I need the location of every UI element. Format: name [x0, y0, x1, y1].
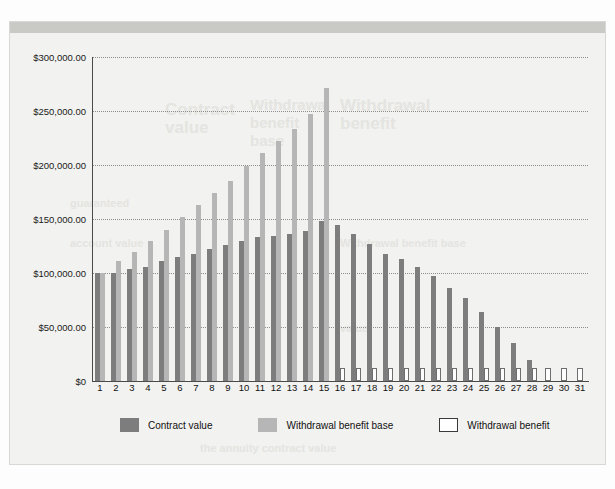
bar-benefit: [404, 368, 409, 381]
bar-base: [228, 181, 233, 381]
bar-contract: [303, 231, 308, 381]
bar-contract: [191, 254, 196, 381]
legend-label: Withdrawal benefit base: [286, 420, 393, 431]
bar-benefit: [340, 368, 345, 381]
x-axis-tick-label: 24: [463, 382, 474, 393]
y-axis-tick-label: $250,000.00: [33, 106, 86, 117]
x-axis-tick-label: 27: [511, 382, 522, 393]
x-axis-tick-label: 23: [447, 382, 458, 393]
bar-group: [124, 57, 140, 381]
bar-contract: [207, 249, 212, 381]
y-axis-tick-label: $200,000.00: [33, 160, 86, 171]
bar-base: [196, 205, 201, 381]
bar-group: [524, 57, 540, 381]
bar-benefit: [468, 368, 473, 381]
bar-benefit: [516, 368, 521, 381]
bar-contract: [335, 225, 340, 381]
bar-contract: [495, 327, 500, 381]
bar-group: [300, 57, 316, 381]
bar-base: [100, 273, 105, 381]
bar-group: [220, 57, 236, 381]
bar-base: [132, 252, 137, 381]
y-axis-line: [92, 57, 93, 382]
y-axis-tick-label: $50,000.00: [38, 322, 86, 333]
bar-contract: [479, 312, 484, 381]
chart-panel: Contract value Withdrawal benefit base W…: [9, 21, 606, 465]
bar-group: [284, 57, 300, 381]
x-axis-tick-label: 10: [239, 382, 250, 393]
x-axis-tick-label: 25: [479, 382, 490, 393]
legend-item[interactable]: Withdrawal benefit base: [258, 418, 393, 432]
bar-base: [148, 241, 153, 381]
x-axis-tick-label: 14: [303, 382, 314, 393]
x-axis-tick-label: 2: [113, 382, 118, 393]
bar-group: [572, 57, 588, 381]
x-axis-tick-label: 5: [161, 382, 166, 393]
bar-group: [380, 57, 396, 381]
bar-contract: [383, 254, 388, 381]
x-axis-tick-label: 29: [543, 382, 554, 393]
bar-benefit: [436, 368, 441, 381]
bar-group: [492, 57, 508, 381]
bar-base: [212, 193, 217, 381]
x-axis-tick-label: 7: [193, 382, 198, 393]
bar-benefit: [577, 368, 583, 381]
bar-base: [164, 230, 169, 381]
bar-benefit: [452, 368, 457, 381]
bar-contract: [127, 269, 132, 381]
ghost-text-k: the annuity contract value: [200, 442, 336, 454]
x-axis-tick-label: 8: [209, 382, 214, 393]
bar-group: [460, 57, 476, 381]
bar-group: [412, 57, 428, 381]
bar-group: [156, 57, 172, 381]
legend-swatch-contract: [120, 418, 139, 432]
bar-contract: [223, 245, 228, 381]
bar-contract: [399, 259, 404, 381]
bar-group: [556, 57, 572, 381]
bar-group: [108, 57, 124, 381]
bar-group: [204, 57, 220, 381]
x-axis-tick-label: 12: [271, 382, 282, 393]
bar-contract: [367, 244, 372, 381]
bar-group: [92, 57, 108, 381]
x-axis-tick-label: 31: [575, 382, 586, 393]
x-axis-tick-label: 21: [415, 382, 426, 393]
bar-group: [316, 57, 332, 381]
legend-item[interactable]: Withdrawal benefit: [439, 418, 549, 432]
bar-benefit: [500, 368, 505, 381]
bar-group: [476, 57, 492, 381]
x-axis-tick-label: 13: [287, 382, 298, 393]
bar-contract: [159, 261, 164, 381]
top-caption: [0, 0, 615, 16]
x-axis-tick-label: 6: [177, 382, 182, 393]
legend-item[interactable]: Contract value: [120, 418, 212, 432]
bar-base: [292, 129, 297, 381]
bar-group: [268, 57, 284, 381]
legend-label: Withdrawal benefit: [467, 420, 549, 431]
y-axis-tick-label: $0: [75, 376, 86, 387]
bar-contract: [527, 360, 532, 381]
bar-group: [172, 57, 188, 381]
bar-base: [116, 261, 121, 381]
bar-contract: [175, 257, 180, 381]
bar-contract: [511, 343, 516, 381]
bar-benefit: [532, 368, 537, 381]
bar-benefit: [420, 368, 425, 381]
bar-group: [364, 57, 380, 381]
bar-benefit: [545, 368, 551, 381]
bar-base: [180, 217, 185, 381]
x-axis-tick-label: 4: [145, 382, 150, 393]
x-axis-tick-label: 18: [367, 382, 378, 393]
x-axis-tick-label: 30: [559, 382, 570, 393]
bar-base: [324, 88, 329, 381]
bar-contract: [255, 237, 260, 381]
x-axis-tick-label: 16: [335, 382, 346, 393]
bar-base: [260, 153, 265, 381]
chart-legend: Contract valueWithdrawal benefit baseWit…: [120, 418, 549, 432]
x-axis-tick-label: 22: [431, 382, 442, 393]
x-axis-tick-label: 1: [97, 382, 102, 393]
bar-group: [508, 57, 524, 381]
bar-group: [252, 57, 268, 381]
bar-base: [244, 166, 249, 381]
x-axis-tick-label: 9: [225, 382, 230, 393]
